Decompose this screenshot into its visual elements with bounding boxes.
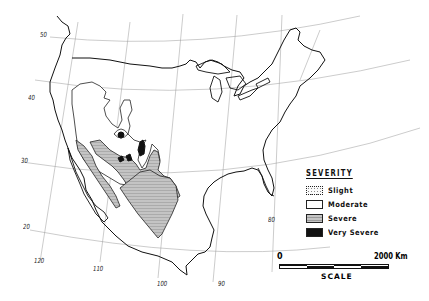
scale-bar-graphic	[279, 264, 389, 269]
longitude-label-110: 110	[93, 265, 103, 273]
florida-outline	[258, 168, 274, 196]
great-lakes	[196, 60, 270, 102]
legend-item-severe: Severe	[306, 211, 384, 225]
legend-label-severe: Severe	[328, 214, 357, 223]
legend-title: SEVERITY	[306, 169, 353, 179]
scale-segment	[334, 265, 361, 268]
scale-segment	[280, 265, 307, 268]
legend-item-moderate: Moderate	[306, 197, 384, 211]
legend-label-very-severe: Very Severe	[328, 228, 379, 237]
swatch-moderate	[306, 200, 323, 209]
map-canvas	[0, 0, 429, 301]
legend-label-moderate: Moderate	[328, 200, 368, 209]
severity-legend: SEVERITY Slight Moderate Severe Very Sev…	[306, 161, 384, 239]
swatch-severe	[306, 214, 323, 223]
longitude-label-80: 80	[268, 216, 275, 224]
swatch-very-severe	[306, 228, 323, 237]
latitude-label-20: 20	[23, 223, 30, 231]
legend-item-slight: Slight	[306, 183, 384, 197]
scale-start-label: 0	[277, 252, 283, 261]
swatch-slight	[306, 186, 323, 195]
scale-segment	[361, 265, 388, 268]
scale-end-label: 2000 Km	[374, 252, 408, 261]
longitude-label-100: 100	[157, 280, 167, 288]
latitude-label-50: 50	[40, 31, 47, 39]
legend-label-slight: Slight	[328, 186, 353, 195]
legend-item-very-severe: Very Severe	[306, 225, 384, 239]
scale-segment	[307, 265, 334, 268]
latitude-label-40: 40	[28, 94, 35, 102]
latitude-label-30: 30	[21, 157, 28, 165]
longitude-label-90: 90	[218, 280, 225, 288]
scale-title: SCALE	[321, 272, 353, 281]
longitude-label-120: 120	[34, 257, 44, 265]
